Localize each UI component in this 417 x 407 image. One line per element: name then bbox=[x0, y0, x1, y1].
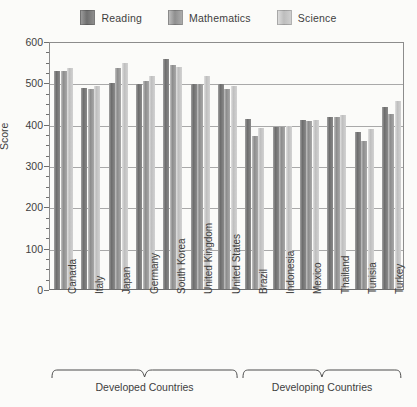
bar-mathematics-south-korea bbox=[170, 65, 176, 289]
chart-plot-area bbox=[49, 42, 404, 290]
bar-reading-south-korea bbox=[163, 59, 169, 289]
bar-group bbox=[323, 43, 350, 289]
bar-reading-canada bbox=[54, 71, 60, 289]
y-tick-label-500: 500 bbox=[3, 77, 43, 89]
y-tick-label-600: 600 bbox=[3, 36, 43, 48]
chart-legend: Reading Mathematics Science bbox=[0, 10, 417, 25]
x-tick-label-thailand: Thailand bbox=[340, 256, 351, 294]
bar-reading-thailand bbox=[327, 117, 333, 289]
x-tick-label-mexico: Mexico bbox=[312, 262, 323, 294]
x-tick-label-japan: Japan bbox=[121, 267, 132, 294]
bar-mathematics-germany bbox=[143, 81, 149, 289]
bar-reading-turkey bbox=[382, 107, 388, 289]
bar-reading-tunisia bbox=[355, 132, 361, 289]
x-tick-label-turkey: Turkey bbox=[394, 264, 405, 294]
legend-label-reading: Reading bbox=[101, 12, 142, 24]
bar-reading-united-states bbox=[218, 84, 224, 289]
bar-reading-united-kingdom bbox=[191, 84, 197, 289]
bar-mathematics-brazil bbox=[252, 136, 258, 289]
bar-mathematics-italy bbox=[88, 89, 94, 289]
brace-developed: Developed Countries bbox=[51, 368, 238, 379]
brace-icon bbox=[242, 368, 402, 379]
bar-reading-mexico bbox=[300, 120, 306, 289]
brace-label: Developing Countries bbox=[242, 381, 402, 393]
bar-reading-germany bbox=[136, 84, 142, 289]
bar-group bbox=[241, 43, 268, 289]
y-tick-mark-0 bbox=[44, 290, 49, 291]
bar-group bbox=[105, 43, 132, 289]
y-tick-label-300: 300 bbox=[3, 160, 43, 172]
mathematics-swatch-icon bbox=[168, 10, 183, 25]
x-tick-label-united-states: United States bbox=[231, 234, 242, 294]
bar-science-italy bbox=[94, 86, 100, 289]
legend-item-mathematics: Mathematics bbox=[168, 10, 251, 25]
y-axis-title: Score bbox=[0, 123, 10, 150]
legend-item-reading: Reading bbox=[80, 10, 142, 25]
x-tick-label-brazil: Brazil bbox=[258, 269, 269, 294]
brace-label: Developed Countries bbox=[51, 381, 238, 393]
bar-reading-indonesia bbox=[273, 127, 279, 289]
x-tick-label-canada: Canada bbox=[67, 259, 78, 294]
x-tick-label-tunisia: Tunisia bbox=[367, 262, 378, 294]
y-tick-label-0: 0 bbox=[3, 284, 43, 296]
legend-item-science: Science bbox=[277, 10, 337, 25]
x-tick-label-south-korea: South Korea bbox=[176, 238, 187, 294]
y-tick-label-100: 100 bbox=[3, 243, 43, 255]
legend-label-mathematics: Mathematics bbox=[189, 12, 251, 24]
science-swatch-icon bbox=[277, 10, 292, 25]
bar-reading-brazil bbox=[245, 119, 251, 289]
bar-group bbox=[350, 43, 377, 289]
x-tick-label-italy: Italy bbox=[94, 276, 105, 294]
x-tick-label-germany: Germany bbox=[149, 253, 160, 294]
bar-science-turkey bbox=[395, 101, 401, 289]
bar-mathematics-japan bbox=[115, 68, 121, 289]
brace-icon bbox=[51, 368, 238, 379]
bar-group bbox=[50, 43, 77, 289]
legend-label-science: Science bbox=[298, 12, 337, 24]
bar-mathematics-canada bbox=[61, 71, 67, 289]
bar-group bbox=[296, 43, 323, 289]
bar-mathematics-united-states bbox=[224, 89, 230, 289]
bar-series-layer bbox=[50, 43, 403, 289]
x-tick-label-indonesia: Indonesia bbox=[285, 251, 296, 294]
bar-reading-japan bbox=[109, 83, 115, 289]
y-tick-label-200: 200 bbox=[3, 201, 43, 213]
bar-reading-italy bbox=[81, 88, 87, 289]
reading-swatch-icon bbox=[80, 10, 95, 25]
bar-science-japan bbox=[122, 63, 128, 290]
bar-group bbox=[378, 43, 405, 289]
bar-mathematics-thailand bbox=[334, 117, 340, 289]
bar-group bbox=[77, 43, 104, 289]
brace-developing: Developing Countries bbox=[242, 368, 402, 379]
bar-science-canada bbox=[67, 68, 73, 289]
bar-science-brazil bbox=[258, 128, 264, 289]
bar-mathematics-turkey bbox=[388, 114, 394, 289]
x-tick-label-united-kingdom: United Kingdom bbox=[203, 223, 214, 294]
